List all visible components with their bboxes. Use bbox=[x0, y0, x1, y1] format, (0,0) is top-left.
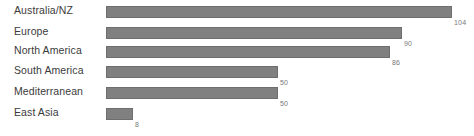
bar-row: Europe 90 bbox=[0, 25, 474, 44]
category-label: Europe bbox=[14, 25, 48, 44]
bar-track: 50 bbox=[106, 87, 462, 99]
bar-track: 86 bbox=[106, 46, 462, 58]
bar-track: 90 bbox=[106, 27, 462, 39]
bar-fill bbox=[106, 46, 390, 58]
category-label: Mediterranean bbox=[14, 85, 83, 104]
bar-track: 50 bbox=[106, 66, 462, 78]
bar-row: South America 50 bbox=[0, 64, 474, 83]
bar-fill bbox=[106, 27, 402, 39]
bar-value-label: 8 bbox=[135, 121, 139, 128]
bar-row: Mediterranean 50 bbox=[0, 85, 474, 104]
bar-row: North America 86 bbox=[0, 44, 474, 63]
category-label: North America bbox=[14, 44, 82, 63]
bar-row: East Asia 8 bbox=[0, 106, 474, 125]
bar-chart: Australia/NZ 104 Europe 90 North America… bbox=[0, 0, 474, 136]
bar-fill bbox=[106, 6, 452, 18]
bar-fill bbox=[106, 87, 278, 99]
category-label: East Asia bbox=[14, 106, 59, 125]
bar-fill bbox=[106, 108, 133, 120]
category-label: Australia/NZ bbox=[14, 4, 73, 23]
bar-row: Australia/NZ 104 bbox=[0, 4, 474, 23]
bar-fill bbox=[106, 66, 278, 78]
bar-track: 104 bbox=[106, 6, 462, 18]
category-label: South America bbox=[14, 64, 84, 83]
bar-track: 8 bbox=[106, 108, 462, 120]
